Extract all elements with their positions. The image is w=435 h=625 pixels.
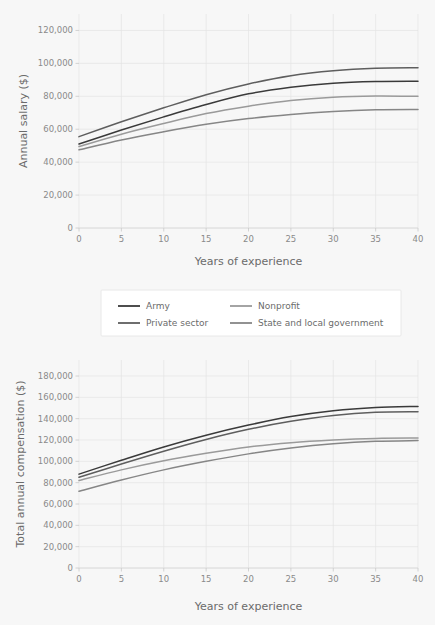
y-tick-label: 0	[68, 563, 73, 573]
axes: 0510152025303540020,00040,00060,00080,00…	[38, 371, 424, 584]
y-tick-label: 40,000	[43, 157, 73, 167]
x-axis-title: Years of experience	[194, 600, 303, 613]
y-axis-title: Total annual compensation ($)	[14, 381, 27, 549]
total-compensation-chart: ArmyPrivate sectorNonprofitState and loc…	[0, 348, 435, 625]
x-tick-label: 40	[413, 574, 424, 584]
y-tick-label: 20,000	[43, 542, 73, 552]
x-tick-label: 30	[328, 234, 339, 244]
x-tick-label: 10	[158, 234, 169, 244]
y-tick-label: 60,000	[43, 499, 73, 509]
x-tick-label: 0	[76, 234, 81, 244]
y-tick-label: 140,000	[38, 414, 73, 424]
x-tick-label: 15	[201, 234, 212, 244]
legend-label: Nonprofit	[258, 301, 300, 311]
y-tick-label: 180,000	[38, 371, 73, 381]
x-tick-label: 40	[413, 234, 424, 244]
y-tick-label: 100,000	[38, 58, 73, 68]
gridlines	[79, 360, 418, 568]
legend-background	[101, 290, 401, 336]
y-tick-label: 80,000	[43, 91, 73, 101]
y-tick-label: 0	[68, 223, 73, 233]
legend-svg: ArmyNonprofitPrivate sectorState and loc…	[0, 282, 435, 348]
x-tick-label: 10	[158, 574, 169, 584]
x-tick-label: 35	[370, 234, 381, 244]
x-tick-label: 15	[201, 574, 212, 584]
y-tick-label: 60,000	[43, 124, 73, 134]
legend: ArmyNonprofitPrivate sectorState and loc…	[0, 282, 435, 348]
figure-container: ArmyPrivate sectorNonprofitState and loc…	[0, 0, 435, 625]
y-tick-label: 120,000	[38, 25, 73, 35]
legend-label: Private sector	[146, 318, 208, 328]
y-tick-label: 40,000	[43, 520, 73, 530]
x-tick-label: 0	[76, 574, 81, 584]
x-tick-label: 25	[285, 234, 296, 244]
chart-panel-total-compensation: ArmyPrivate sectorNonprofitState and loc…	[0, 348, 435, 625]
y-tick-label: 120,000	[38, 435, 73, 445]
chart-panel-annual-salary: ArmyPrivate sectorNonprofitState and loc…	[0, 0, 435, 282]
legend-label: Army	[146, 301, 170, 311]
legend-label: State and local government	[258, 318, 384, 328]
y-tick-label: 100,000	[38, 456, 73, 466]
y-axis-title: Annual salary ($)	[17, 74, 30, 168]
x-tick-label: 35	[370, 574, 381, 584]
x-tick-label: 5	[119, 234, 124, 244]
x-tick-label: 30	[328, 574, 339, 584]
x-tick-label: 20	[243, 574, 254, 584]
x-tick-label: 25	[285, 574, 296, 584]
x-axis-title: Years of experience	[194, 255, 303, 268]
x-tick-label: 20	[243, 234, 254, 244]
x-tick-label: 5	[119, 574, 124, 584]
y-tick-label: 80,000	[43, 478, 73, 488]
axes: 0510152025303540020,00040,00060,00080,00…	[38, 25, 424, 244]
y-tick-label: 20,000	[43, 190, 73, 200]
gridlines	[79, 14, 418, 228]
annual-salary-chart: ArmyPrivate sectorNonprofitState and loc…	[0, 0, 435, 282]
y-tick-label: 160,000	[38, 392, 73, 402]
